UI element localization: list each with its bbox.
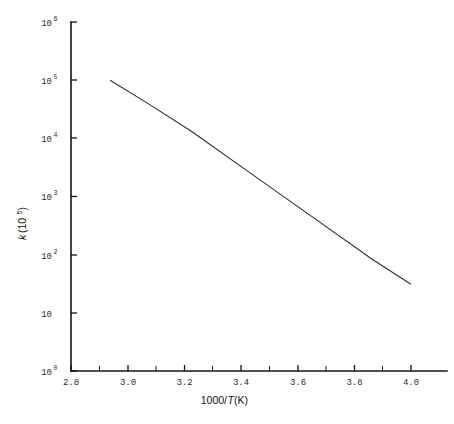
y-tick-label: 10: [41, 77, 52, 87]
x-axis-title-suffix: (K): [234, 394, 248, 406]
x-tick-label: 3.6: [290, 378, 306, 388]
y-axis-title-symbol: k: [16, 234, 28, 240]
x-tick-label: 3.2: [176, 378, 192, 388]
x-axis-tick-labels: 2.83.03.23.43.63.84.0: [63, 378, 419, 388]
chart-canvas: 10010102103104105106 2.83.03.23.43.63.84…: [0, 0, 454, 424]
y-tick-label: 10: [41, 135, 52, 145]
y-axis-title-close: ): [16, 207, 28, 211]
x-tick-label: 4.0: [403, 378, 419, 388]
arrhenius-chart-figure: 10010102103104105106 2.83.03.23.43.63.84…: [0, 0, 454, 424]
x-tick-label: 2.8: [63, 378, 79, 388]
y-axis-tick-labels: 10010102103104105106: [41, 16, 57, 378]
y-axis-ticks: [71, 22, 77, 371]
y-tick-label-exponent: 3: [54, 190, 58, 197]
axis-lines: [71, 22, 447, 371]
y-tick-label: 10: [41, 19, 52, 29]
y-tick-label: 10: [41, 310, 52, 320]
data-series-group: [110, 80, 411, 284]
y-tick-label-exponent: 6: [54, 16, 58, 23]
data-line-arrhenius: [110, 80, 411, 284]
x-tick-label: 3.0: [120, 378, 136, 388]
y-tick-label-exponent: 4: [54, 132, 58, 139]
x-axis-title: 1000/ T (K): [201, 394, 248, 406]
y-tick-label-exponent: 2: [54, 249, 58, 256]
y-tick-label: 10: [41, 368, 52, 378]
y-axis-title-open: (10: [16, 218, 28, 233]
y-tick-label: 10: [41, 193, 52, 203]
y-tick-label-exponent: 0: [54, 365, 58, 372]
y-tick-label-exponent: 5: [54, 74, 58, 81]
x-axis-title-prefix: 1000/: [201, 394, 227, 406]
y-tick-label: 10: [41, 252, 52, 262]
y-axis-title: k (10 5 ): [16, 207, 28, 240]
x-tick-label: 3.8: [346, 378, 362, 388]
x-axis-ticks: [71, 365, 411, 371]
x-tick-label: 3.4: [233, 378, 249, 388]
